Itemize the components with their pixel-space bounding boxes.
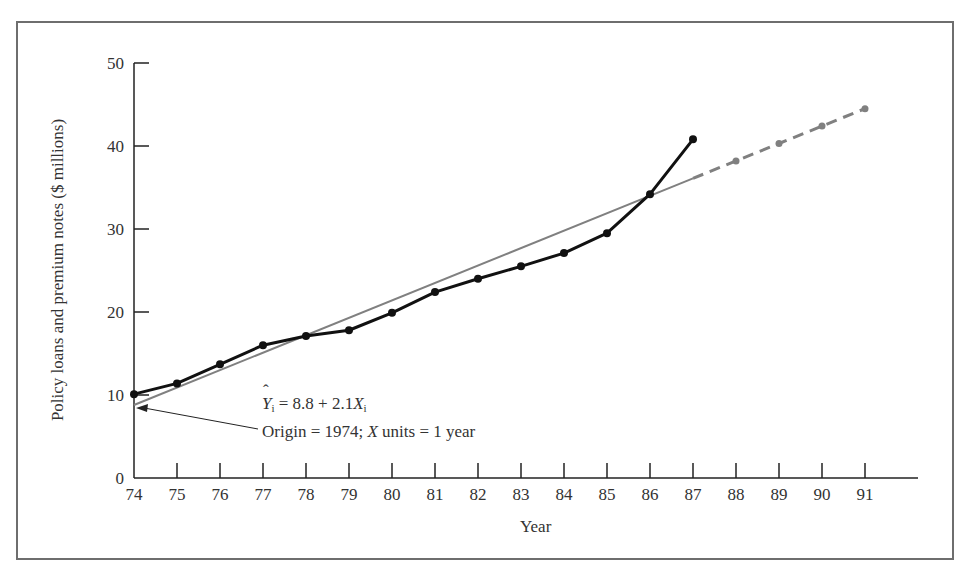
y-tick-label: 50 <box>107 54 124 73</box>
y-tick-label: 40 <box>107 137 124 156</box>
x-tick-label: 87 <box>685 485 703 504</box>
x-tick-label: 74 <box>126 485 144 504</box>
x-axis-label: Year <box>520 517 551 537</box>
y-axis-label: Policy loans and premium notes ($ millio… <box>48 119 68 421</box>
actual-point <box>603 229 611 237</box>
x-tick-label: 77 <box>255 485 273 504</box>
x-tick-label: 91 <box>857 485 874 504</box>
actual-line <box>134 139 693 394</box>
x-tick-label: 79 <box>341 485 358 504</box>
y-tick-label: 10 <box>107 386 124 405</box>
actual-point <box>517 262 525 270</box>
y-tick-label: 30 <box>107 220 124 239</box>
actual-point <box>689 135 697 143</box>
y-tick-label: 20 <box>107 303 124 322</box>
x-tick-label: 86 <box>642 485 659 504</box>
actual-point <box>345 326 353 334</box>
annotation-arrow <box>144 408 258 429</box>
line-chart: 0102030405074757677787980818283848586878… <box>0 0 970 580</box>
y-tick-label: 0 <box>116 469 125 488</box>
x-tick-label: 89 <box>771 485 788 504</box>
actual-point <box>216 360 224 368</box>
actual-point <box>130 390 138 398</box>
x-tick-label: 84 <box>556 485 574 504</box>
x-tick-label: 85 <box>599 485 616 504</box>
forecast-point <box>862 105 869 112</box>
x-tick-label: 75 <box>169 485 186 504</box>
x-tick-label: 81 <box>427 485 444 504</box>
x-tick-label: 80 <box>384 485 401 504</box>
forecast-point <box>776 140 783 147</box>
forecast-point <box>819 123 826 130</box>
x-tick-label: 78 <box>298 485 315 504</box>
y-hat: Y <box>262 394 271 414</box>
forecast-point <box>733 157 740 164</box>
x-tick-label: 83 <box>513 485 530 504</box>
actual-point <box>431 288 439 296</box>
actual-point <box>302 332 310 340</box>
actual-point <box>474 275 482 283</box>
x-tick-label: 76 <box>212 485 229 504</box>
trend-line <box>134 178 693 405</box>
x-tick-label: 88 <box>728 485 745 504</box>
actual-point <box>646 190 654 198</box>
x-tick-label: 90 <box>814 485 831 504</box>
arrowhead-icon <box>136 404 148 412</box>
actual-point <box>388 309 396 317</box>
actual-point <box>259 341 267 349</box>
x-tick-label: 82 <box>470 485 487 504</box>
origin-note: Origin = 1974; X units = 1 year <box>262 422 475 442</box>
actual-point <box>173 379 181 387</box>
regression-equation: Yi = 8.8 + 2.1Xi <box>262 394 367 414</box>
actual-point <box>560 249 568 257</box>
